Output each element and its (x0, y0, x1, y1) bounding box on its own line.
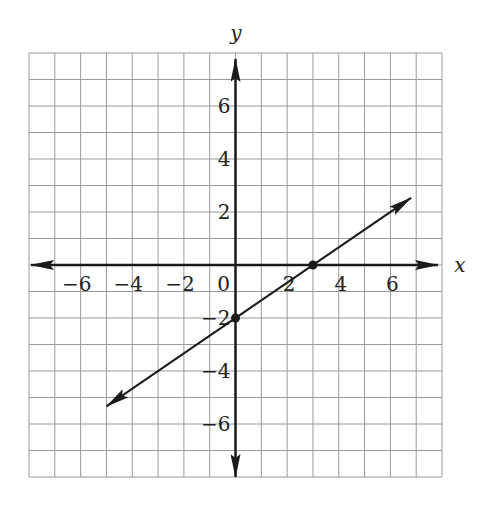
x-axis-label: x (454, 253, 465, 277)
axes (31, 59, 438, 477)
y-tick-label: −2 (201, 306, 230, 330)
y-tick-label: −6 (201, 412, 230, 436)
x-tick-label: 0 (217, 272, 230, 296)
data-point (231, 314, 240, 323)
coordinate-plane: −6−4−20246−6−4−2246 x y (0, 0, 481, 508)
plotted-line (106, 198, 411, 406)
y-axis-label: y (229, 21, 242, 45)
line-series (106, 198, 411, 406)
y-tick-label: 4 (218, 147, 231, 171)
x-tick-label: 6 (386, 272, 399, 296)
y-tick-label: −4 (201, 359, 230, 383)
y-tick-label: 2 (218, 200, 231, 224)
x-tick-label: −2 (165, 272, 194, 296)
x-tick-label: −6 (62, 272, 91, 296)
data-point (308, 261, 317, 270)
x-tick-label: 4 (334, 272, 347, 296)
y-tick-label: 6 (218, 94, 231, 118)
x-tick-label: −4 (114, 272, 143, 296)
